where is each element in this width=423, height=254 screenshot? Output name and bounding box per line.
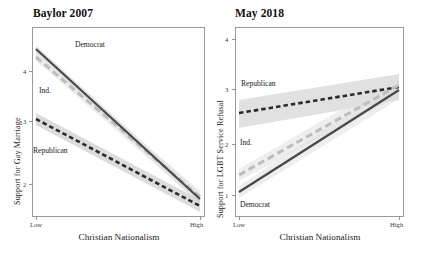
figure-two-panel-chart: Baylor 2007 Support for Gay Marriage 4 3… xyxy=(0,0,423,254)
x-axis-title-left: Christian Nationalism xyxy=(33,232,205,242)
plot-area-left xyxy=(0,0,211,254)
x-tick-label-high-right: High xyxy=(390,221,403,228)
plot-area-right xyxy=(211,0,423,254)
x-tick-label-low-right: Low xyxy=(233,221,245,228)
series-label-republican-right: Republican xyxy=(241,79,276,88)
x-axis-title-right: Christian Nationalism xyxy=(236,232,404,242)
series-label-independent-right: Ind. xyxy=(240,138,252,147)
x-tick-label-high-left: High xyxy=(190,221,203,228)
series-label-democrat-right: Democrat xyxy=(240,200,270,209)
series-label-independent-left: Ind. xyxy=(39,86,51,95)
x-tick-label-low-left: Low xyxy=(30,221,42,228)
panel-baylor-2007: Baylor 2007 Support for Gay Marriage 4 3… xyxy=(0,0,211,254)
panel-may-2018: May 2018 Support for LGBT Service Refusa… xyxy=(211,0,422,254)
series-label-democrat-left: Democrat xyxy=(75,40,105,49)
series-label-republican-left: Republican xyxy=(33,146,68,155)
